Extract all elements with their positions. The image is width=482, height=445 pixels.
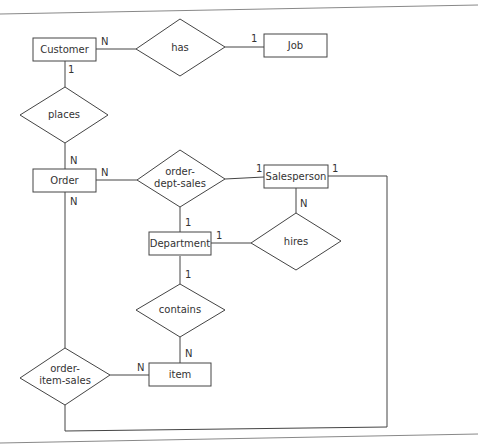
bottom-rule (0, 434, 478, 443)
cardinality-label: N (70, 155, 77, 166)
entity-label: item (169, 369, 192, 380)
cardinality-label: N (70, 196, 77, 207)
entity-department[interactable]: Department (149, 232, 211, 255)
cardinality-label: 1 (256, 163, 262, 174)
relationship-hires[interactable]: hires (251, 213, 341, 270)
entity-label: Salesperson (266, 171, 327, 182)
relationship-has[interactable]: has (136, 19, 225, 76)
cardinality-label: 1 (251, 33, 257, 44)
cardinality-label: N (300, 198, 307, 209)
relationship-label: hires (284, 236, 308, 247)
relationship-label: has (171, 42, 189, 53)
top-rule (0, 5, 478, 14)
relationship-label: item-sales (39, 375, 91, 386)
entity-salesperson[interactable]: Salesperson (264, 165, 328, 188)
relationship-order-dept-sales[interactable]: order- dept-sales (137, 150, 225, 207)
cardinality-label: N (101, 167, 108, 178)
entity-label: Job (287, 40, 303, 51)
entity-item[interactable]: item (149, 363, 211, 386)
relationship-label: order- (165, 166, 195, 177)
entity-order[interactable]: Order (33, 169, 96, 192)
relationship-label: order- (50, 363, 80, 374)
cardinality-label: 1 (216, 230, 222, 241)
entity-customer[interactable]: Customer (33, 38, 96, 61)
entity-label: Department (150, 238, 211, 249)
cardinality-label: N (185, 348, 192, 359)
relationship-label: contains (159, 304, 201, 315)
cardinality-label: N (101, 36, 108, 47)
relationship-places[interactable]: places (20, 87, 108, 143)
cardinality-label: N (137, 362, 144, 373)
relationship-order-item-sales[interactable]: order- item-sales (20, 348, 110, 405)
cardinality-label: 1 (332, 163, 338, 174)
cardinality-label: 1 (185, 269, 191, 280)
relationship-label: places (48, 109, 80, 120)
relationship-contains[interactable]: contains (136, 284, 225, 337)
entity-label: Order (50, 175, 79, 186)
er-diagram: Customer Job Order Salesperson Departmen… (0, 0, 482, 445)
entity-job[interactable]: Job (264, 34, 327, 57)
entity-label: Customer (40, 44, 89, 55)
relationship-label: dept-sales (154, 178, 206, 189)
cardinality-label: 1 (185, 217, 191, 228)
cardinality-label: 1 (68, 64, 74, 75)
